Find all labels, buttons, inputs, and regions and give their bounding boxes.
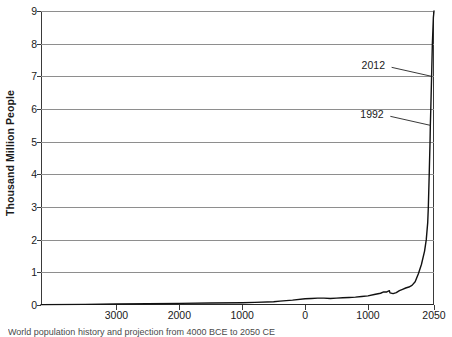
y-tick-label: 7 xyxy=(20,70,37,82)
x-tick-label: 1000 xyxy=(231,309,254,321)
x-tick-label: 0 xyxy=(302,309,308,321)
y-tick-label: 6 xyxy=(20,103,37,115)
y-tick-label: 9 xyxy=(20,5,37,17)
y-tick-label: 4 xyxy=(20,168,37,180)
population-chart-figure: Thousand Million People 0123456789 20121… xyxy=(0,0,452,337)
x-tick-label: 2050 xyxy=(422,309,445,321)
y-tick-label: 5 xyxy=(20,136,37,148)
x-tick-label: 2000 xyxy=(168,309,191,321)
figure-caption: World population history and projection … xyxy=(8,327,448,337)
x-tick-label: 3000 xyxy=(105,309,128,321)
y-axis-title-text: Thousand Million People xyxy=(4,90,16,216)
x-tick-label: 1000 xyxy=(356,309,379,321)
y-tick-label: 8 xyxy=(20,38,37,50)
x-axis-ticks: 300020001000010002050 xyxy=(41,0,434,337)
y-tick-label: 3 xyxy=(20,201,37,213)
y-axis-title: Thousand Million People xyxy=(0,0,20,305)
y-tick-label: 1 xyxy=(20,266,37,278)
y-tick-label: 0 xyxy=(20,299,37,311)
y-axis-tick-labels: 0123456789 xyxy=(20,0,37,337)
y-tick-label: 2 xyxy=(20,234,37,246)
